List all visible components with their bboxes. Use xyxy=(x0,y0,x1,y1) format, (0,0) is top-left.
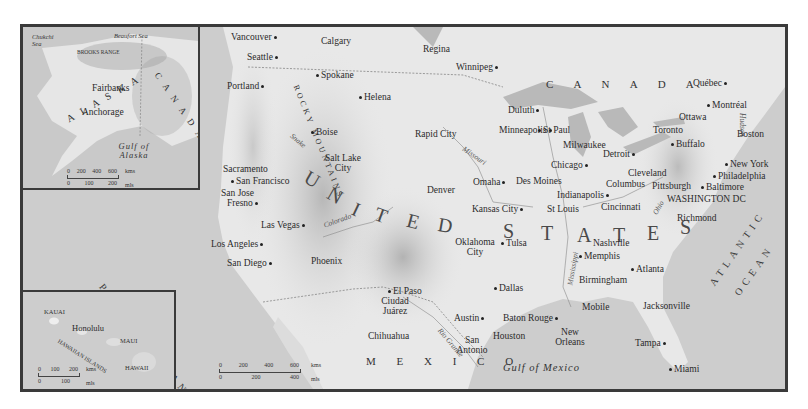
city-rapid-city: Rapid City xyxy=(415,130,456,140)
city-mobile: Mobile xyxy=(582,303,609,313)
label-beaufort-sea: Beaufort Sea xyxy=(114,33,148,40)
city-cincinnati: Cincinnati xyxy=(601,203,641,213)
city-boise: Boise xyxy=(311,128,338,138)
city-baton-rouge: Baton Rouge xyxy=(503,314,558,324)
city-philadelphia: Philadelphia xyxy=(713,172,766,182)
city-columbus: Columbus xyxy=(606,180,645,190)
hawaii-inset: KAUAI Honolulu HAWAIIAN ISLANDS MAUI HAW… xyxy=(20,290,176,392)
city-ottawa: Ottawa xyxy=(679,113,706,123)
label-brooks-range: BROOKS RANGE xyxy=(77,50,120,56)
city-chicago: Chicago xyxy=(551,161,588,171)
city-san-diego: San Diego xyxy=(227,259,272,269)
label-chukchi-sea: Chukchi Sea xyxy=(32,34,56,47)
city-tampa: Tampa xyxy=(635,339,666,349)
label-us-a: A xyxy=(577,225,591,245)
city-new-orleans: New Orleans xyxy=(553,328,587,347)
city-new-york: New York xyxy=(725,160,769,170)
city-richmond: Richmond xyxy=(677,214,717,224)
label-maui: MAUI xyxy=(120,338,137,345)
city-calgary: Calgary xyxy=(321,37,351,47)
city-washington-dc: WASHINGTON DC xyxy=(667,195,746,205)
city-los-angeles: Los Angeles xyxy=(211,240,263,250)
city-fairbanks: Fairbanks xyxy=(92,84,129,94)
city-indianapolis: Indianapolis xyxy=(557,191,609,201)
city-cleveland: Cleveland xyxy=(628,169,667,179)
city-fresno: Fresno xyxy=(227,199,258,209)
city-milwaukee: Milwaukee xyxy=(563,141,606,151)
city-san-antonio: San Antonio xyxy=(455,336,489,355)
city-chihuahua: Chihuahua xyxy=(368,332,409,342)
city-baltimore: Baltimore xyxy=(701,183,744,193)
label-gulf-of-alaska: Gulf of Alaska xyxy=(114,142,154,161)
city-nashville: Nashville xyxy=(593,239,629,249)
city-oklahoma-city: Oklahoma City xyxy=(453,238,497,257)
city-tulsa: Tulsa xyxy=(501,239,527,249)
city-winnipeg: Winnipeg xyxy=(456,63,498,73)
label-mexico: M E X I C O xyxy=(366,356,522,367)
city-seattle: Seattle xyxy=(247,53,278,63)
city-austin: Austin xyxy=(454,314,484,324)
map-frame: C A N A D A M E X I C O U N I T E D S T … xyxy=(20,24,788,392)
label-hawaii: HAWAII xyxy=(125,365,148,372)
city-portland: Portland xyxy=(227,82,264,92)
city-honolulu: Honolulu xyxy=(72,324,104,333)
city-kansas-city: Kansas City xyxy=(472,205,523,215)
alaska-scale-bar: 0200400600 kms 0100200 mls xyxy=(67,168,147,186)
city-helena: Helena xyxy=(359,93,391,103)
city-birmingham: Birmingham xyxy=(579,276,627,286)
city-houston: Houston xyxy=(493,332,525,342)
city-miami: Miami xyxy=(669,365,699,375)
city-montreal: Montréal xyxy=(707,101,747,111)
city-atlanta: Atlanta xyxy=(631,265,664,275)
main-scale-bar: 0200400600 kms 0200400 mls xyxy=(219,362,329,380)
city-sacramento: Sacramento xyxy=(223,165,268,175)
city-buffalo: Buffalo xyxy=(671,140,705,150)
city-boston: Boston xyxy=(737,130,764,140)
city-omaha: Omaha xyxy=(473,178,505,188)
city-jacksonville: Jacksonville xyxy=(643,302,690,312)
city-st-louis: St Louis xyxy=(547,205,579,215)
city-quebec: Québec xyxy=(693,79,727,89)
city-vancouver: Vancouver xyxy=(231,33,277,43)
city-phoenix: Phoenix xyxy=(311,257,342,267)
city-ciudad-juarez: Ciudad Juárez xyxy=(375,297,415,316)
city-salt-lake-city: Salt Lake City xyxy=(323,154,363,173)
city-las-vegas: Las Vegas xyxy=(261,221,305,231)
label-gulf-of-mexico: Gulf of Mexico xyxy=(503,363,580,374)
city-pittsburgh: Pittsburgh xyxy=(652,182,691,192)
city-anchorage: Anchorage xyxy=(82,108,124,118)
city-duluth: Duluth xyxy=(508,106,539,116)
alaska-inset: Chukchi Sea Beaufort Sea BROOKS RANGE A … xyxy=(20,24,200,190)
city-spokane: Spokane xyxy=(316,71,354,81)
city-regina: Regina xyxy=(423,45,450,55)
label-us-e2: E xyxy=(647,223,659,243)
label-canada: C A N A D A xyxy=(546,79,703,90)
label-us-t2: T xyxy=(541,223,553,243)
city-memphis: Memphis xyxy=(579,252,620,262)
city-toronto: Toronto xyxy=(653,126,683,136)
city-des-moines: Des Moines xyxy=(516,177,562,187)
city-denver: Denver xyxy=(427,186,455,196)
city-dallas: Dallas xyxy=(494,284,523,294)
city-detroit: Detroit xyxy=(603,150,635,160)
hawaii-scale-bar: 0100200 kms 0100 mls xyxy=(38,366,118,384)
city-st-paul: St Paul xyxy=(538,126,570,136)
city-san-francisco: San Francisco xyxy=(231,177,290,187)
label-kauai: KAUAI xyxy=(44,309,65,316)
